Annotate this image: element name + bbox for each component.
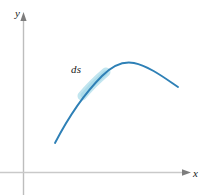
ds-annotation-label: ds [71, 64, 81, 75]
y-axis-label: y [15, 8, 20, 19]
x-axis-label: x [193, 168, 198, 179]
figure-canvas [0, 0, 204, 195]
y-axis-arrowhead [20, 12, 26, 21]
arc-length-figure: y x ds [0, 0, 204, 195]
x-axis-arrowhead [182, 169, 191, 175]
